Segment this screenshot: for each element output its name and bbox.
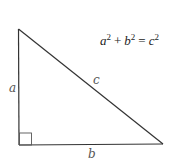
label-side-b: b [88,147,96,161]
eq-plus: + [114,33,121,48]
right-angle-marker [20,133,32,145]
label-side-c: c [93,73,100,87]
label-side-a: a [9,81,16,95]
pythagorean-diagram: a b c a2+b2=c2 [0,0,178,164]
eq-equals: = [138,33,145,48]
eq-a-exp: 2 [107,32,112,42]
pythagorean-equation: a2+b2=c2 [100,32,159,48]
eq-c-exp: 2 [154,32,159,42]
side-b-line [19,144,163,145]
side-a-line [19,29,20,145]
eq-b-exp: 2 [131,32,136,42]
